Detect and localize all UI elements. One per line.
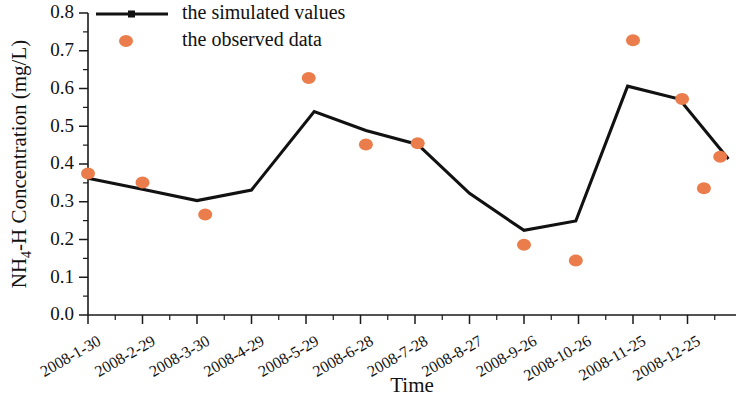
legend-item-observed: the observed data bbox=[119, 28, 322, 50]
y-tick-label: 0.0 bbox=[50, 303, 74, 324]
x-tick-label: 2008-4-29 bbox=[201, 332, 267, 380]
y-axis-title-subscript: 4 bbox=[19, 251, 34, 258]
y-tick-label: 0.5 bbox=[50, 115, 74, 136]
observed-data-point bbox=[697, 182, 711, 194]
chart-container: 0.00.10.20.30.40.50.60.70.8 2008-1-30200… bbox=[0, 0, 738, 399]
y-axis-ticks bbox=[79, 13, 88, 315]
y-tick-label: 0.4 bbox=[50, 152, 74, 173]
x-axis-ticks bbox=[88, 315, 715, 324]
simulated-values-line bbox=[88, 86, 728, 230]
x-tick-label: 2008-3-30 bbox=[146, 332, 212, 380]
observed-data-point bbox=[302, 72, 316, 84]
x-tick-label: 2008-1-30 bbox=[37, 332, 103, 380]
observed-data-point bbox=[517, 239, 531, 251]
y-axis-title: NH4-H Concentration (mg/L) bbox=[7, 40, 34, 288]
axes-group bbox=[88, 13, 736, 315]
legend-item-simulated: the simulated values bbox=[96, 1, 346, 23]
y-axis-tick-labels: 0.00.10.20.30.40.50.60.70.8 bbox=[50, 1, 74, 324]
x-tick-label: 2008-6-28 bbox=[310, 332, 376, 380]
nh4-concentration-line-chart: 0.00.10.20.30.40.50.60.70.8 2008-1-30200… bbox=[0, 0, 738, 399]
y-tick-label: 0.3 bbox=[50, 190, 74, 211]
y-axis-title-prefix: NH bbox=[7, 258, 31, 288]
series-simulated-values bbox=[88, 86, 728, 230]
observed-data-point bbox=[198, 209, 212, 221]
x-tick-label: 2008-5-29 bbox=[255, 332, 321, 380]
observed-data-point bbox=[81, 167, 95, 179]
legend-square-marker bbox=[128, 11, 135, 18]
y-tick-label: 0.8 bbox=[50, 1, 74, 22]
y-tick-label: 0.7 bbox=[50, 39, 74, 60]
x-axis-tick-labels: 2008-1-302008-2-292008-3-302008-4-292008… bbox=[37, 332, 703, 384]
observed-data-point bbox=[569, 255, 583, 267]
series-observed-data bbox=[81, 34, 727, 266]
y-tick-label: 0.1 bbox=[50, 266, 74, 287]
y-axis-title-text: NH4-H Concentration (mg/L) bbox=[7, 40, 34, 288]
observed-data-point bbox=[675, 93, 689, 105]
chart-legend: the simulated values the observed data bbox=[96, 1, 346, 50]
observed-data-point bbox=[411, 137, 425, 149]
observed-data-point bbox=[359, 138, 373, 150]
legend-label-observed: the observed data bbox=[182, 28, 322, 50]
x-tick-label: 2008-2-29 bbox=[92, 332, 158, 380]
y-axis-title-suffix: -H Concentration (mg/L) bbox=[7, 40, 31, 251]
y-tick-label: 0.2 bbox=[50, 228, 74, 249]
observed-data-point bbox=[713, 151, 727, 163]
legend-dot-marker bbox=[119, 35, 133, 47]
y-tick-label: 0.6 bbox=[50, 77, 74, 98]
x-axis-title: Time bbox=[390, 373, 434, 397]
observed-data-point bbox=[626, 34, 640, 46]
legend-label-simulated: the simulated values bbox=[182, 1, 346, 23]
observed-data-point bbox=[136, 177, 150, 189]
